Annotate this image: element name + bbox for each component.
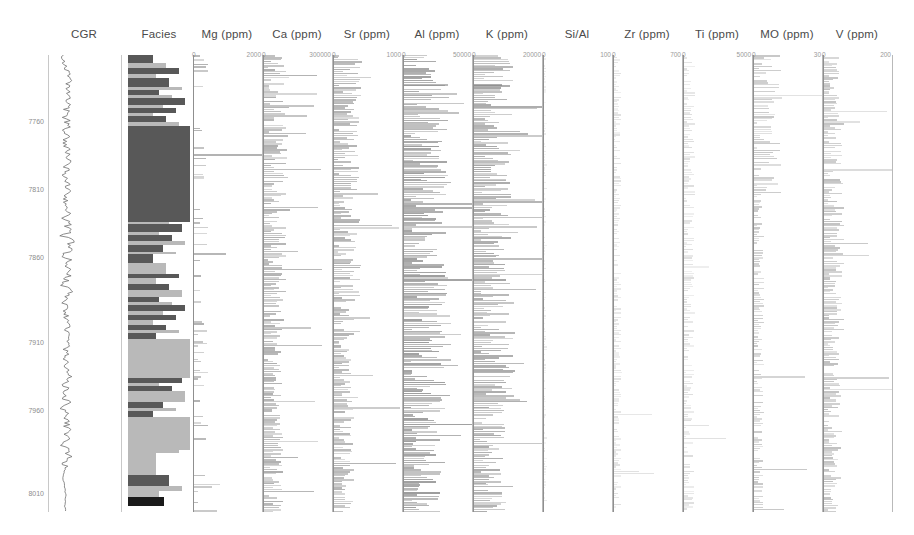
log-bar <box>544 224 545 226</box>
log-bar <box>614 119 621 120</box>
log-bar <box>824 57 839 59</box>
log-bar <box>334 331 360 332</box>
log-bar <box>334 181 357 182</box>
log-bar <box>404 57 424 58</box>
log-bar <box>614 117 619 118</box>
log-bar <box>474 256 496 257</box>
log-bar <box>824 163 841 164</box>
log-bar <box>404 287 434 288</box>
facies-block <box>128 339 190 378</box>
log-bar <box>474 462 496 464</box>
log-bar <box>264 61 271 62</box>
log-bar <box>544 338 546 340</box>
log-bar <box>754 196 757 198</box>
log-bar <box>614 455 616 456</box>
log-bar <box>614 332 619 333</box>
log-bar <box>754 238 759 239</box>
log-bar <box>264 457 298 458</box>
log-bar <box>264 443 278 444</box>
log-bar <box>614 279 617 280</box>
log-bar <box>334 315 349 316</box>
log-bar <box>194 218 203 219</box>
log-bar <box>684 165 688 167</box>
log-bar <box>754 383 758 385</box>
log-bar <box>264 71 286 72</box>
log-bar <box>194 370 200 371</box>
log-bar <box>404 391 422 392</box>
log-bar <box>754 139 764 140</box>
log-bar <box>544 442 546 443</box>
log-bar <box>474 486 513 487</box>
log-bar <box>684 187 688 189</box>
log-bar <box>684 198 686 199</box>
log-bar <box>754 95 822 96</box>
log-bar <box>614 431 618 432</box>
log-bar <box>264 511 273 512</box>
log-bar <box>474 418 486 420</box>
log-bar <box>684 88 691 89</box>
log-bar <box>474 484 488 485</box>
log-bar <box>194 510 217 512</box>
log-bar <box>824 291 830 292</box>
log-bar <box>334 421 344 423</box>
log-bar <box>404 65 416 67</box>
log-bar <box>264 303 276 304</box>
log-bar <box>684 290 688 291</box>
log-bar <box>264 497 277 499</box>
log-bar <box>264 383 282 384</box>
log-bar <box>684 455 693 457</box>
log-bar <box>474 431 505 432</box>
track-Ti <box>683 55 753 512</box>
log-bar <box>264 305 279 307</box>
log-bar <box>544 367 546 369</box>
log-bar <box>754 498 759 499</box>
log-bar <box>264 401 315 402</box>
log-bar <box>264 63 278 64</box>
log-bar <box>334 429 340 430</box>
log-bar <box>684 174 694 175</box>
log-bar <box>614 396 621 397</box>
log-bar <box>544 162 545 164</box>
log-bar <box>684 407 691 409</box>
log-bar <box>614 169 617 170</box>
log-bar <box>754 288 764 289</box>
log-bar <box>754 133 772 134</box>
depth-label: 7760 <box>0 118 44 125</box>
log-bar <box>824 355 829 356</box>
log-bar <box>544 115 546 117</box>
log-bar <box>194 165 206 166</box>
log-bar <box>264 291 286 292</box>
log-bar <box>614 277 619 278</box>
log-bar <box>544 91 546 92</box>
log-bar <box>334 79 360 80</box>
log-bar <box>544 487 545 488</box>
log-bar <box>264 375 275 376</box>
log-bar <box>684 134 690 135</box>
log-bar <box>264 341 273 342</box>
log-bar <box>614 317 621 318</box>
log-bar <box>824 239 844 240</box>
log-bar <box>334 191 340 192</box>
log-bar <box>614 341 621 342</box>
log-bar <box>824 425 828 426</box>
log-bar <box>544 315 546 317</box>
log-bar <box>404 505 429 506</box>
log-bar <box>614 429 617 430</box>
log-bar <box>614 372 622 374</box>
log-bar <box>684 70 689 71</box>
log-bar <box>684 246 686 247</box>
log-bar <box>264 425 277 426</box>
log-bar <box>544 71 546 73</box>
depth-label: 7960 <box>0 407 44 414</box>
track-Sr <box>333 55 403 512</box>
log-bar <box>194 209 200 210</box>
log-bar <box>334 475 345 476</box>
log-bar <box>614 420 619 421</box>
log-bar <box>474 376 510 377</box>
log-bar <box>264 221 277 222</box>
log-bar <box>824 489 831 490</box>
log-bar <box>754 479 759 480</box>
log-bar <box>684 299 687 300</box>
log-bar <box>544 450 545 451</box>
track-Mg <box>193 55 263 512</box>
